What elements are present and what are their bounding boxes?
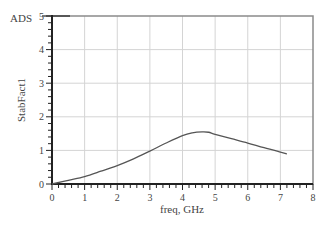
- x-tick-label: 8: [311, 192, 316, 203]
- x-tick-label: 5: [213, 192, 218, 203]
- y-tick-label: 2: [39, 111, 44, 122]
- tick-marks: [46, 16, 313, 190]
- y-tick-labels: 012345: [39, 11, 44, 190]
- x-tick-label: 0: [50, 192, 55, 203]
- x-tick-label: 4: [180, 192, 185, 203]
- x-tick-label: 7: [278, 192, 283, 203]
- stabfact1-curve: [52, 132, 287, 184]
- y-tick-label: 0: [39, 179, 44, 190]
- y-tick-label: 1: [39, 145, 44, 156]
- x-axis-title: freq, GHz: [160, 203, 204, 215]
- y-tick-label: 5: [39, 11, 44, 22]
- x-tick-label: 6: [245, 192, 250, 203]
- x-tick-label: 1: [82, 192, 87, 203]
- grid-lines: [52, 16, 313, 184]
- axes: [42, 15, 313, 185]
- x-tick-label: 3: [147, 192, 152, 203]
- ads-label: ADS: [10, 12, 32, 24]
- x-tick-label: 2: [115, 192, 120, 203]
- x-tick-labels: 012345678: [50, 192, 316, 203]
- y-tick-label: 3: [39, 78, 44, 89]
- stability-factor-chart: ADS 012345 012345678 freq, GHz StabFact1: [0, 0, 329, 234]
- y-tick-label: 4: [39, 44, 44, 55]
- y-axis-title: StabFact1: [15, 78, 27, 122]
